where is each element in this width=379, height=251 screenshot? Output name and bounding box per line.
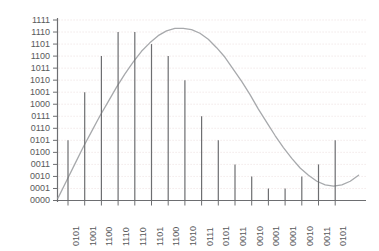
x-axis-tick-label: 0101 (339, 226, 348, 246)
x-axis-tick-label: 1110 (139, 227, 148, 246)
y-axis-ticks (53, 20, 58, 201)
x-axis-tick-label: 0010 (256, 226, 265, 246)
y-axis-tick-label: 1011 (20, 64, 50, 73)
x-axis-tick-label: 0011 (239, 227, 248, 246)
y-axis-tick-label: 0011 (20, 160, 50, 169)
y-axis-tick-label: 1101 (20, 40, 50, 49)
x-axis-tick-label: 1110 (122, 227, 131, 246)
y-axis-tick-label: 1110 (20, 28, 50, 37)
x-axis-tick-label: 1010 (189, 226, 198, 246)
y-axis-tick-label: 1010 (20, 76, 50, 85)
x-axis-tick-label: 0001 (272, 226, 281, 246)
quantization-chart: 1111111011011100101110101001100001110110… (0, 0, 379, 251)
x-axis-tick-label: 0101 (222, 226, 231, 246)
x-axis-tick-label: 0010 (306, 226, 315, 246)
x-axis-tick-label: 1100 (105, 227, 114, 246)
x-axis-tick-label: 0111 (206, 227, 215, 246)
y-axis-tick-label: 0101 (20, 136, 50, 145)
y-axis-tick-label: 0100 (20, 148, 50, 157)
gridlines (59, 20, 367, 188)
y-axis-tick-label: 1100 (20, 52, 50, 61)
y-axis-tick-label: 1000 (20, 100, 50, 109)
sample-bars (68, 32, 335, 200)
y-axis-tick-label: 0111 (20, 112, 50, 121)
y-axis-tick-label: 0110 (20, 124, 50, 133)
x-axis-tick-label: 0011 (323, 227, 332, 246)
y-axis-tick-label: 0000 (20, 196, 50, 205)
analog-sine-curve (58, 28, 359, 198)
x-axis-tick-label: 0101 (72, 226, 81, 246)
chart-canvas (0, 0, 379, 251)
x-axis-tick-label: 1101 (156, 227, 165, 246)
x-axis-tick-label: 1001 (89, 226, 98, 246)
x-axis-tick-label: 0001 (289, 226, 298, 246)
x-axis-ticks (68, 201, 335, 206)
y-axis-tick-label: 1001 (20, 88, 50, 97)
y-axis-tick-label: 1111 (20, 16, 50, 25)
y-axis-tick-label: 0001 (20, 184, 50, 193)
x-axis-tick-label: 1100 (172, 227, 181, 246)
y-axis-tick-label: 0010 (20, 172, 50, 181)
